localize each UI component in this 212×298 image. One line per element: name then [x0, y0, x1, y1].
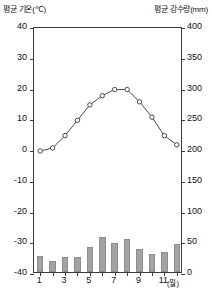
right-axis-tick-label: 300 [187, 84, 202, 93]
x-axis-tick-label: 9 [131, 276, 147, 285]
temperature-marker [125, 87, 129, 91]
temperature-marker [175, 143, 179, 147]
left-axis-tick-label: -30 [0, 237, 27, 246]
temperature-line [40, 90, 177, 152]
left-axis-tick-label: -40 [0, 268, 27, 277]
plot-area [33, 27, 182, 273]
left-axis-title: 평균 기온(℃) [3, 3, 46, 14]
temperature-line-layer [34, 28, 183, 274]
right-axis-title: 평균 강수량(mm) [154, 3, 208, 14]
temperature-marker [88, 103, 92, 107]
temperature-marker [137, 100, 141, 104]
temperature-markers [38, 87, 179, 153]
temperature-marker [113, 87, 117, 91]
left-axis-tick-label: 30 [0, 53, 27, 62]
temperature-marker [38, 149, 42, 153]
right-axis-tick-label: 200 [187, 145, 202, 154]
left-tick [30, 274, 34, 275]
temperature-marker [50, 146, 54, 150]
left-axis-tick-label: 10 [0, 114, 27, 123]
left-axis-tick-label: 40 [0, 22, 27, 31]
temperature-marker [100, 93, 104, 97]
left-axis-tick-label: 20 [0, 84, 27, 93]
x-axis-unit-label: (월) [167, 277, 179, 288]
temperature-marker [63, 133, 67, 137]
right-axis-tick-label: 150 [187, 176, 202, 185]
left-axis-tick-label: 0 [0, 145, 27, 154]
left-axis-tick-label: -10 [0, 176, 27, 185]
x-axis-tick-label: 1 [31, 276, 47, 285]
right-axis-tick-label: 100 [187, 207, 202, 216]
right-tick [181, 274, 185, 275]
x-axis-tick-label: 7 [106, 276, 122, 285]
climate-graph: 평균 기온(℃) 평균 강수량(mm) 403020100-10-20-30-4… [0, 0, 212, 298]
right-axis-tick-label: 50 [187, 237, 197, 246]
right-axis-tick-label: 350 [187, 53, 202, 62]
temperature-marker [150, 115, 154, 119]
temperature-marker [162, 133, 166, 137]
right-axis-tick-label: 400 [187, 22, 202, 31]
x-axis-tick-label: 3 [56, 276, 72, 285]
x-axis-tick-label: 5 [81, 276, 97, 285]
temperature-marker [75, 118, 79, 122]
right-axis-tick-label: 250 [187, 114, 202, 123]
left-axis-tick-label: -20 [0, 207, 27, 216]
right-axis-tick-label: 0 [187, 268, 192, 277]
